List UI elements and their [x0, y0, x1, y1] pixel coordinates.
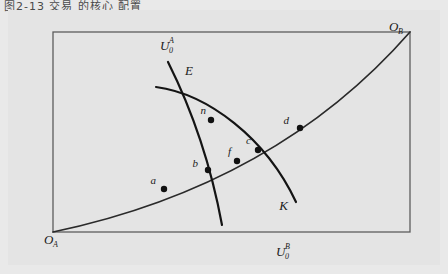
- data-point-d: [297, 125, 303, 131]
- origin-a-subscript: A: [52, 240, 58, 249]
- utility-b-superscript: B: [285, 242, 290, 251]
- point-label-K: K: [278, 198, 289, 213]
- data-point-f: [234, 158, 240, 164]
- point-label-b: b: [193, 157, 199, 169]
- indifference-curve-a: [168, 62, 222, 225]
- edgeworth-box-diagram: EndcfbaK O A O B U 0 A U 0 B: [8, 10, 440, 265]
- point-label-E: E: [184, 63, 193, 78]
- utility-a-superscript: A: [168, 36, 174, 45]
- data-point-c: [255, 147, 261, 153]
- data-point-b: [205, 167, 211, 173]
- data-points-group: [161, 117, 303, 192]
- point-label-d: d: [284, 114, 290, 126]
- point-label-n: n: [201, 104, 207, 116]
- origin-b-subscript: B: [398, 27, 403, 36]
- figure-panel: EndcfbaK O A O B U 0 A U 0 B: [8, 10, 440, 265]
- data-point-a: [161, 186, 167, 192]
- edgeworth-box-frame: [53, 32, 410, 232]
- contract-curve: [53, 32, 410, 232]
- data-point-n: [208, 117, 214, 123]
- point-label-a: a: [151, 174, 157, 186]
- utility-a-subscript: 0: [169, 46, 173, 55]
- point-label-c: c: [246, 134, 251, 146]
- utility-b-subscript: 0: [285, 252, 289, 261]
- point-labels-group: EndcfbaK: [151, 63, 290, 213]
- point-label-f: f: [228, 145, 233, 157]
- indifference-curve-b: [156, 87, 296, 202]
